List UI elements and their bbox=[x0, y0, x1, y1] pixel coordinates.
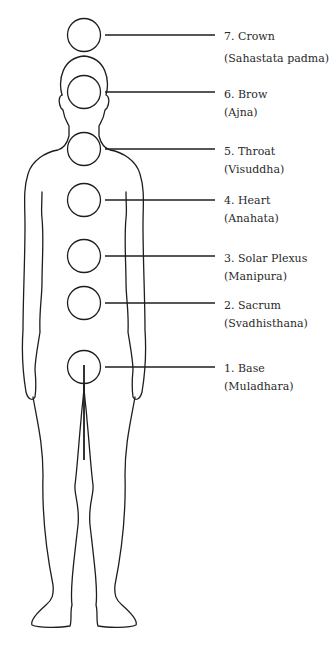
head-outline bbox=[61, 56, 146, 399]
chakra-circle-brow bbox=[68, 76, 101, 109]
chakra-name: 4. Heart bbox=[224, 192, 279, 210]
chakra-name: 1. Base bbox=[224, 360, 294, 378]
chakra-label-crown: 7. Crown (Sahastata padma) bbox=[224, 28, 329, 68]
chakra-circle-crown bbox=[68, 19, 101, 52]
chakra-sanskrit: (Visuddha) bbox=[224, 161, 284, 179]
chakra-name: 3. Solar Plexus bbox=[224, 250, 307, 268]
chakra-circle-solar-plexus bbox=[68, 240, 101, 273]
right-leg-outline bbox=[84, 385, 136, 627]
chakra-label-brow: 6. Brow (Ajna) bbox=[224, 86, 267, 122]
chakra-name: 7. Crown bbox=[224, 28, 329, 46]
chakra-sanskrit: (Svadhisthana) bbox=[224, 315, 308, 333]
chakra-circle-heart bbox=[68, 184, 101, 217]
chakra-circle-sacrum bbox=[68, 287, 101, 320]
chakra-label-heart: 4. Heart (Anahata) bbox=[224, 192, 279, 228]
chakra-name: 2. Sacrum bbox=[224, 297, 308, 315]
chakra-sanskrit: (Anahata) bbox=[224, 210, 279, 228]
chakra-label-sacrum: 2. Sacrum (Svadhisthana) bbox=[224, 297, 308, 333]
chakra-sanskrit: (Sahastata padma) bbox=[224, 50, 329, 68]
chakra-label-solar-plexus: 3. Solar Plexus (Manipura) bbox=[224, 250, 307, 286]
chakra-label-throat: 5. Throat (Visuddha) bbox=[224, 143, 284, 179]
chakra-sanskrit: (Manipura) bbox=[224, 268, 307, 286]
chakra-sanskrit: (Muladhara) bbox=[224, 378, 294, 396]
chakra-label-base: 1. Base (Muladhara) bbox=[224, 360, 294, 396]
left-body-outline bbox=[22, 95, 69, 399]
chakra-name: 6. Brow bbox=[224, 86, 267, 104]
chakra-sanskrit: (Ajna) bbox=[224, 104, 267, 122]
chakra-circle-throat bbox=[68, 133, 101, 166]
chakra-name: 5. Throat bbox=[224, 143, 284, 161]
left-leg-outline bbox=[32, 385, 84, 627]
